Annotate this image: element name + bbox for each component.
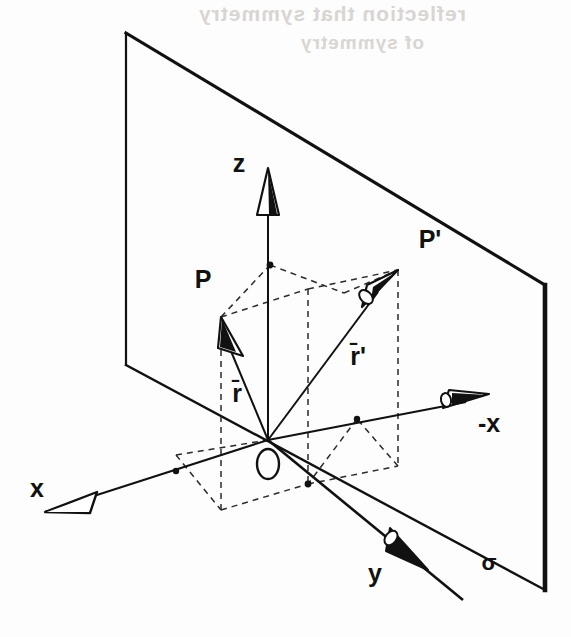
label-axis-minus-x: -x bbox=[478, 409, 500, 437]
axis-line-x bbox=[72, 440, 268, 503]
label-vector-r-prime: r̄' bbox=[350, 342, 366, 370]
axis-line-y bbox=[268, 440, 463, 600]
label-plane-sigma: σ bbox=[481, 550, 496, 575]
dashed-bottom-left-to-origin-row bbox=[176, 440, 268, 455]
origin-glyph-ring bbox=[257, 449, 279, 479]
label-axis-z: z bbox=[233, 149, 246, 177]
axis-tick-dot-z bbox=[267, 262, 274, 269]
figure-root: reflection that symmetry of symmetry bbox=[0, 0, 571, 637]
axis-tick-dot-minus-x bbox=[354, 416, 360, 422]
vector-reflection-diagram: z P P' r̄ r̄' x -x y σ bbox=[0, 0, 571, 637]
axis-arrowhead-minus-x-shade bbox=[452, 393, 487, 405]
dashed-bottom-right-to-back bbox=[357, 419, 398, 466]
vector-arrowhead-r-shade bbox=[220, 319, 236, 352]
axis-tick-dot-y bbox=[305, 481, 312, 488]
label-point-p: P bbox=[195, 265, 212, 293]
label-point-p-prime: P' bbox=[419, 225, 442, 253]
dashed-bottom-front-to-mid bbox=[221, 484, 308, 510]
axis-tick-dot-x bbox=[173, 468, 179, 474]
mirror-plane-sigma bbox=[126, 33, 545, 590]
dashed-top-p-to-midcorner bbox=[221, 289, 308, 317]
axis-line-minus-x bbox=[268, 402, 466, 440]
axis-arrowhead-x-shade bbox=[47, 497, 90, 512]
label-axis-x: x bbox=[30, 474, 44, 502]
plane-edge-top bbox=[126, 33, 545, 285]
label-axis-y: y bbox=[368, 559, 382, 587]
label-vector-r: r̄ bbox=[232, 379, 243, 407]
dashed-bottom-back-to-mid bbox=[308, 419, 357, 484]
